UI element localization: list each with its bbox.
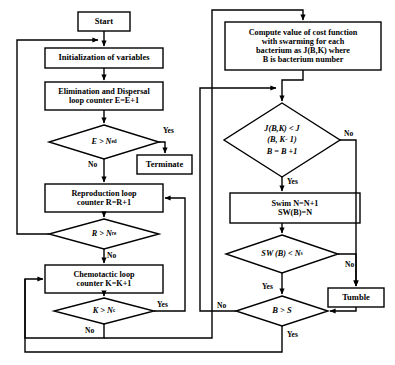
edge-label-swim-yes: Yes: [262, 283, 273, 291]
edge-label-elimination-yes: Yes: [163, 127, 174, 135]
shape-elimination: [45, 82, 163, 110]
edge-chemotactic-yes-to-reproduction: [154, 198, 185, 311]
shape-cost-decision: [224, 103, 340, 177]
edge-label-swim-no: No: [345, 261, 354, 269]
shape-swim: [230, 193, 360, 223]
shape-chemotactic: [45, 265, 163, 293]
edge-label-bs-yes: Yes: [287, 331, 298, 339]
shape-bs-decision: [236, 296, 328, 326]
edge-label-cost-yes: Yes: [287, 178, 298, 186]
shape-reproduction-decision: [49, 219, 159, 249]
edge-label-reproduction-no: No: [107, 252, 116, 260]
flowchart-canvas: Start Initialization of variables Elimin…: [0, 0, 395, 365]
edge-label-chemotactic-yes: Yes: [157, 301, 168, 309]
edge-swim-no-to-tumble: [338, 254, 356, 286]
shape-reproduction: [45, 184, 163, 212]
flowchart-connectors: [0, 0, 395, 365]
shape-elimination-decision: [49, 125, 159, 159]
edge-label-bs-no: No: [217, 302, 226, 310]
shape-compute: [225, 22, 381, 70]
edge-label-chemotactic-no: No: [85, 327, 94, 335]
edge-compute-to-cost-decision: [282, 70, 303, 101]
shape-start: [78, 12, 130, 31]
edge-label-elimination-no: No: [88, 161, 97, 169]
shape-chemotactic-decision: [54, 298, 154, 324]
edge-label-cost-no: No: [344, 130, 353, 138]
shape-swim-decision: [226, 235, 338, 273]
edge-chemotactic-no-to-compute: [104, 10, 303, 338]
edge-reproduction-yes-loop-to-init: [17, 40, 98, 234]
shape-terminate: [137, 155, 192, 174]
shape-tumble: [328, 288, 384, 307]
edge-bs-yes-to-chemotactic: [25, 279, 282, 352]
edge-elimination-yes-to-terminate: [159, 142, 165, 153]
shape-init: [45, 48, 163, 68]
